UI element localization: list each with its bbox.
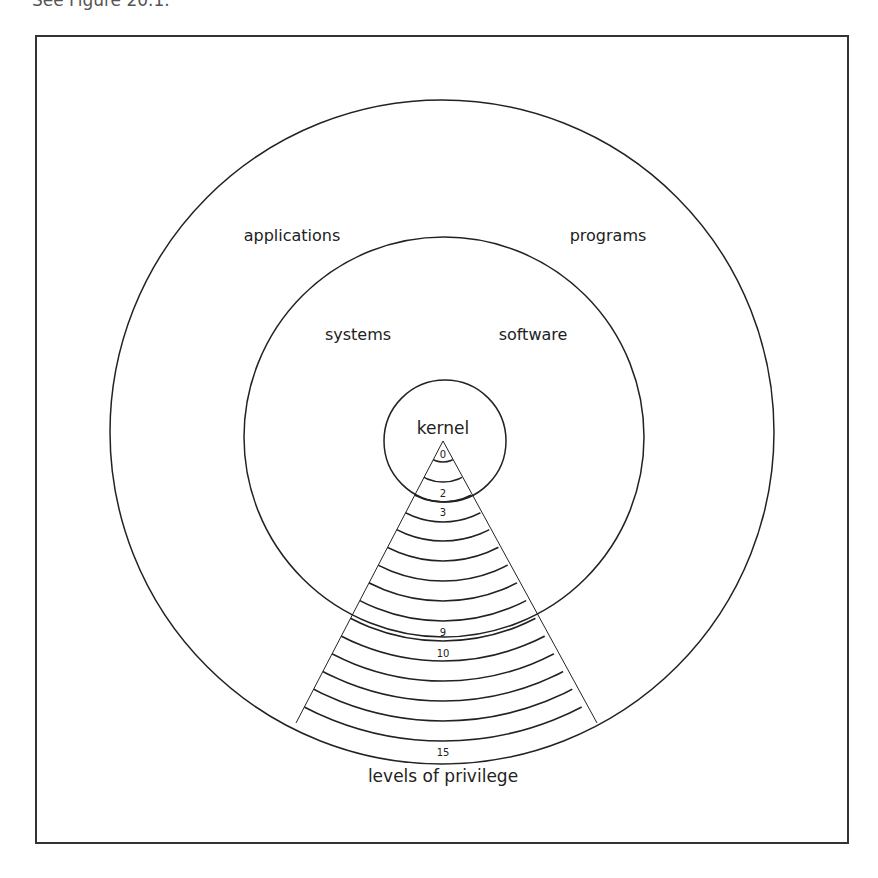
kernel-ring <box>384 380 506 502</box>
label-programs: programs <box>570 226 647 245</box>
level-0: 0 <box>440 449 446 460</box>
label-systems: systems <box>325 325 391 344</box>
level-10: 10 <box>437 648 450 659</box>
level-15: 15 <box>437 747 450 758</box>
label-kernel: kernel <box>417 418 469 438</box>
label-levels-of-privilege: levels of privilege <box>368 766 518 786</box>
label-applications: applications <box>244 226 341 245</box>
privilege-rings-diagram: applications programs systems software k… <box>0 0 878 878</box>
level-2: 2 <box>440 488 446 499</box>
level-9: 9 <box>440 627 446 638</box>
label-software: software <box>499 325 568 344</box>
level-3: 3 <box>440 507 446 518</box>
